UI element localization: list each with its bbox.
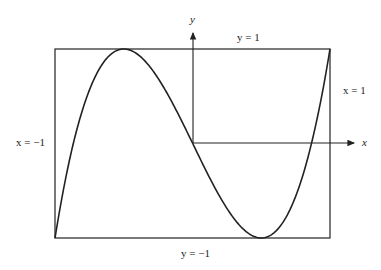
figure-canvas xyxy=(0,0,381,270)
top-boundary-label: y = 1 xyxy=(237,31,260,43)
left-boundary-label: x = −1 xyxy=(16,136,45,148)
y-axis-label: y xyxy=(190,13,195,25)
bottom-boundary-label: y = −1 xyxy=(181,247,210,259)
x-axis-label: x xyxy=(362,136,367,148)
right-boundary-label: x = 1 xyxy=(343,84,366,96)
